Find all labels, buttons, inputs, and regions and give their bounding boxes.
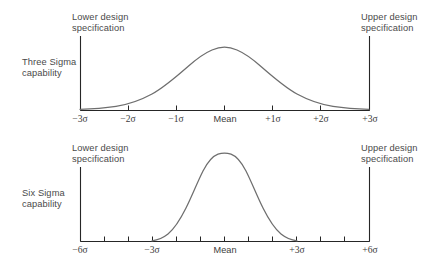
six-sigma-chart-graphics <box>0 0 430 269</box>
six-sigma-normal-curve <box>152 153 297 241</box>
six-sigma-tick-marks <box>81 237 370 242</box>
six-sigma-lower-spec-label: Lower designspecification <box>72 143 129 165</box>
six-sigma-tick-label-minus3: −3σ <box>144 245 159 255</box>
six-sigma-capability-figure: Lower designspecification Upper designsp… <box>0 0 430 269</box>
six-sigma-tick-label-plus6: +6σ <box>362 245 377 255</box>
six-sigma-tick-label-mean: Mean <box>214 245 237 255</box>
six-sigma-tick-label-plus3: +3σ <box>289 245 304 255</box>
six-sigma-capability-label: Six Sigmacapability <box>22 188 80 210</box>
six-sigma-tick-label-minus6: −6σ <box>72 245 87 255</box>
six-sigma-upper-spec-label: Upper designspecification <box>361 143 418 165</box>
